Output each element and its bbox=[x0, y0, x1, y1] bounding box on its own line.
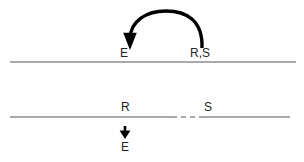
label-top-enzyme: E bbox=[120, 47, 128, 59]
curved-arrow-icon bbox=[123, 11, 202, 50]
curved-arrow-shaft bbox=[130, 11, 202, 48]
label-top-sites: R,S bbox=[190, 47, 210, 59]
label-bottom-enzyme: E bbox=[121, 141, 129, 153]
down-arrow-head bbox=[120, 130, 131, 139]
diagram-canvas bbox=[0, 0, 304, 162]
label-bottom-s: S bbox=[204, 101, 212, 113]
down-arrow-icon bbox=[120, 126, 131, 139]
label-bottom-r: R bbox=[121, 101, 130, 113]
strand-diagram-figure: E R,S R S E bbox=[0, 0, 304, 162]
